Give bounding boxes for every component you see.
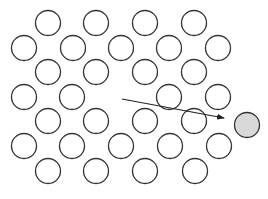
lattice-atom	[12, 36, 37, 61]
lattice-atom	[12, 134, 37, 159]
lattice-atom	[133, 11, 158, 36]
lattice-atom	[109, 36, 134, 61]
lattice-atom	[206, 85, 231, 110]
lattice-atom	[84, 11, 109, 36]
lattice-atom	[133, 60, 158, 85]
lattice-atom	[157, 36, 182, 61]
lattice-atom	[84, 60, 109, 85]
displaced-atom	[235, 113, 260, 138]
lattice-atom	[36, 60, 61, 85]
lattice-atom	[158, 134, 183, 159]
lattice-atom	[12, 85, 37, 110]
lattice-atom	[207, 134, 232, 159]
lattice-atom	[109, 134, 134, 159]
lattice-diagram	[0, 0, 268, 199]
lattice-atom	[36, 11, 61, 36]
lattice-atom	[84, 109, 109, 134]
lattice-atom	[182, 60, 207, 85]
lattice-atoms	[12, 11, 232, 184]
lattice-atom	[60, 85, 85, 110]
lattice-atom	[61, 36, 86, 61]
lattice-atom	[182, 11, 207, 36]
lattice-atom	[60, 134, 85, 159]
lattice-atom	[36, 159, 61, 184]
lattice-atom	[206, 36, 231, 61]
lattice-atom	[36, 109, 61, 134]
lattice-atom	[133, 159, 158, 184]
lattice-atom	[84, 159, 109, 184]
lattice-atom	[133, 109, 158, 134]
lattice-atom	[183, 159, 208, 184]
